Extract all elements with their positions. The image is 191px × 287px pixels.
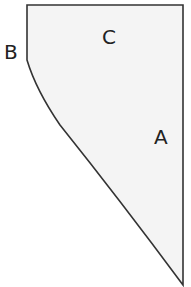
shape-diagram: B C A [0, 0, 191, 287]
label-b: B [4, 42, 18, 62]
label-c: C [102, 27, 116, 47]
label-a: A [154, 127, 168, 147]
